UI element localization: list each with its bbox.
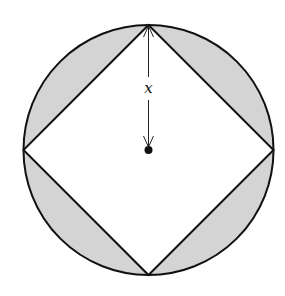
- diagram-canvas: x: [0, 0, 285, 296]
- center-point: [145, 146, 153, 154]
- radius-label: x: [144, 79, 153, 97]
